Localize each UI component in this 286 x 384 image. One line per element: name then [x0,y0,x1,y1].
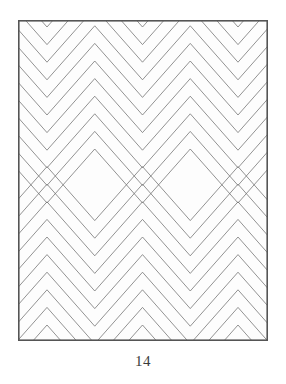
zigzag-pattern-svg [18,20,268,341]
figure-container: 14 [0,0,286,384]
plate-background [18,20,268,341]
figure-caption: 14 [0,352,286,370]
pattern-plate [18,20,268,341]
figure-number-text: 14 [135,353,151,369]
